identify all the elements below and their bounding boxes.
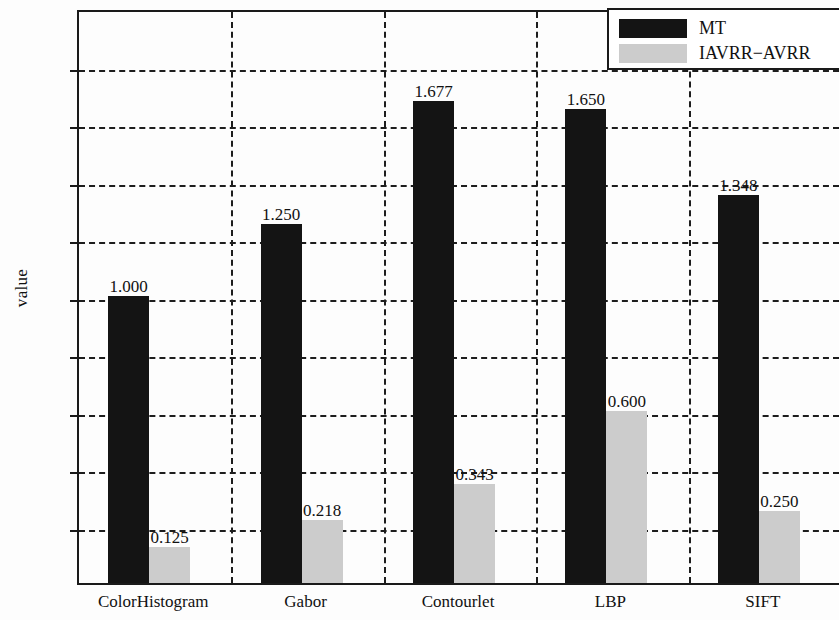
legend-swatch-iavrr-avrr-icon: [619, 44, 687, 63]
bar-value-label: 0.250: [744, 493, 814, 510]
x-axis-category-label: SIFT: [663, 592, 839, 612]
bar-chart-figure: value 00.20.40.60.811.21.41.61.82 1.0000…: [0, 0, 839, 620]
y-axis-tick: [70, 357, 79, 359]
y-axis-tick: [70, 530, 79, 532]
y-axis-tick: [70, 472, 79, 474]
gridline-x: [384, 12, 386, 583]
bar-value-label: 1.250: [246, 206, 316, 223]
bar-mt: [565, 109, 606, 583]
bar-value-label: 0.125: [135, 529, 205, 546]
bar-value-label: 0.343: [440, 466, 510, 483]
y-axis-tick: [70, 415, 79, 417]
y-axis-tick: [70, 242, 79, 244]
legend-item-mt: MT: [619, 16, 839, 40]
bar-value-label: 0.600: [592, 393, 662, 410]
gridline-x: [536, 12, 538, 583]
legend-item-iavrr-avrr: IAVRR−AVRR: [619, 41, 839, 65]
legend-swatch-mt-icon: [619, 19, 687, 38]
gridline-x: [689, 12, 691, 583]
bar-value-label: 0.218: [287, 502, 357, 519]
gridline-x: [231, 12, 233, 583]
y-axis-label: value: [12, 248, 32, 328]
y-axis-tick: [70, 127, 79, 129]
bar-iavrr: [606, 411, 647, 584]
bar-value-label: 1.348: [703, 177, 773, 194]
legend-label-mt: MT: [699, 19, 726, 37]
chart-legend: MT IAVRR−AVRR: [607, 8, 839, 70]
y-axis-tick: [70, 300, 79, 302]
bar-iavrr: [149, 547, 190, 583]
bar-value-label: 1.677: [399, 83, 469, 100]
bar-iavrr: [302, 520, 343, 583]
bar-mt: [261, 224, 302, 583]
bar-mt: [413, 101, 454, 583]
legend-label-iavrr-avrr: IAVRR−AVRR: [699, 44, 811, 62]
bar-iavrr: [454, 484, 495, 583]
y-axis-tick: [70, 70, 79, 72]
bar-mt: [718, 195, 759, 583]
bar-value-label: 1.650: [551, 91, 621, 108]
y-axis-tick: [70, 185, 79, 187]
plot-area: 1.0000.1251.2500.2181.6770.3431.6500.600…: [77, 10, 839, 585]
gridline-y: [79, 127, 839, 129]
bar-value-label: 1.000: [94, 278, 164, 295]
bar-iavrr: [759, 511, 800, 583]
